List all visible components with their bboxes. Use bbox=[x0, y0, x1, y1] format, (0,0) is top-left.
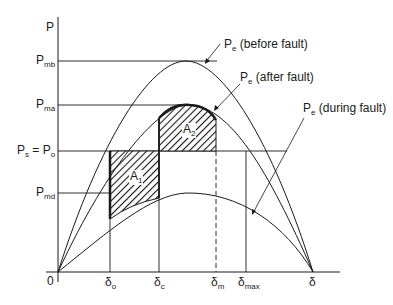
label-before-fault: Pe (before fault) bbox=[224, 38, 308, 53]
power-angle-diagram bbox=[0, 0, 393, 305]
x-axis-end-label: δ bbox=[309, 276, 316, 288]
curve-during-fault bbox=[58, 193, 313, 272]
label-delta-max: δmax bbox=[238, 276, 260, 291]
label-pma: Pma bbox=[36, 98, 55, 113]
label-during-fault: Pe (during fault) bbox=[303, 102, 386, 117]
label-pmd: Pmd bbox=[36, 186, 55, 201]
curve-before-fault bbox=[58, 61, 313, 272]
area-a1 bbox=[110, 151, 159, 219]
origin-label: 0 bbox=[47, 275, 54, 287]
label-ps-po: Ps = Po bbox=[17, 144, 55, 159]
label-after-fault: Pe (after fault) bbox=[240, 71, 314, 86]
label-delta-m: δm bbox=[211, 276, 224, 291]
label-pmb: Pmb bbox=[36, 54, 55, 69]
label-delta-c: δc bbox=[154, 276, 165, 291]
label-area-a1: A1 bbox=[129, 170, 143, 185]
label-area-a2: A2 bbox=[182, 123, 196, 138]
label-delta-o: δo bbox=[105, 276, 116, 291]
y-axis-label: P bbox=[46, 21, 54, 33]
